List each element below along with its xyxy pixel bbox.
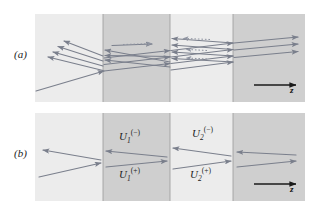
region-3-substrate-b [233,113,305,201]
wave-label-u2-minus: U2(−) [192,125,213,142]
u1-minus-base: U [119,130,127,142]
wave-label-u2-plus: U2(+) [190,166,211,183]
u2-minus-base: U [192,127,200,139]
z-axis-label-a: z [290,85,294,95]
u2-plus-sup: (+) [202,166,211,175]
z-axis-label-b: z [290,184,294,194]
wave-label-u1-plus: U1(+) [119,166,140,183]
panel-label-a: (a) [14,48,27,60]
u1-minus-sup: (−) [131,128,140,137]
u1-plus-sup: (+) [131,166,140,175]
u2-plus-sub: 2 [198,174,202,183]
physics-ray-diagram [0,0,319,211]
panel-a-group [35,14,305,102]
region-1-medium-b [103,113,170,201]
region-0-vacuum-b [35,113,103,201]
u1-plus-sub: 1 [127,174,131,183]
u2-minus-sup: (−) [204,125,213,134]
u1-minus-sub: 1 [127,136,131,145]
u1-plus-base: U [119,168,127,180]
region-2-gap [170,14,233,102]
region-3-substrate [233,14,305,102]
u2-minus-sub: 2 [200,133,204,142]
panel-label-b: (b) [14,147,27,159]
u2-plus-base: U [190,168,198,180]
panel-b-group [35,113,305,201]
wave-label-u1-minus: U1(−) [119,128,140,145]
